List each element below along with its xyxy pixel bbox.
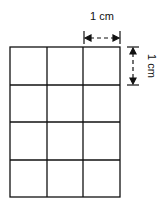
horizontal-dimension-arrow bbox=[84, 31, 120, 44]
grid-diagram bbox=[0, 0, 166, 203]
grid bbox=[10, 47, 120, 197]
vertical-dimension-label: 1 cm bbox=[146, 54, 158, 78]
vertical-dimension-arrow bbox=[127, 47, 139, 85]
horizontal-dimension-label: 1 cm bbox=[90, 10, 114, 22]
